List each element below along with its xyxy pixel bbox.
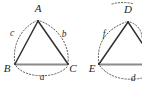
- triangle-def-group: D E d f: [88, 3, 142, 84]
- vertex-dot-b: [14, 63, 16, 65]
- side-label-b: b: [62, 29, 67, 39]
- vertex-label-b: B: [4, 62, 11, 74]
- vertex-label-c: C: [69, 62, 77, 74]
- vertex-label-d: D: [123, 3, 132, 15]
- side-label-f: f: [103, 29, 107, 39]
- edge-d-f: [128, 22, 142, 43]
- arc-e-to-base: [100, 66, 142, 79]
- vertex-label-a: A: [34, 2, 42, 14]
- side-label-a: a: [40, 72, 45, 82]
- figure-canvas: A B C a b c: [0, 0, 142, 85]
- side-label-d: d: [131, 73, 136, 83]
- arc-d-to-f: [130, 22, 142, 38]
- geometry-figure: A B C a b c: [0, 0, 142, 85]
- vertex-dot-a: [37, 20, 39, 22]
- arc-a-to-c: [40, 21, 68, 63]
- triangle-abc-group: A B C a b c: [4, 2, 78, 82]
- vertex-label-e: E: [88, 62, 96, 74]
- vertex-dot-d: [127, 21, 129, 23]
- vertex-dot-e: [98, 63, 100, 65]
- side-label-c: c: [10, 28, 15, 38]
- edge-a-c: [38, 21, 68, 64]
